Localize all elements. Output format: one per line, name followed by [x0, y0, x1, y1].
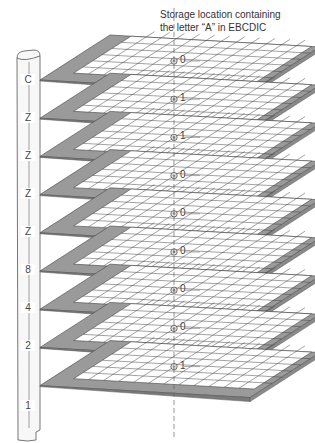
core-memory-diagram: Storage location containing the letter “… [0, 0, 315, 443]
column-label-2: 2 [21, 340, 35, 351]
column-label-8: 8 [21, 264, 35, 275]
core-planes-illustration [0, 0, 315, 443]
bit-value: 0 [180, 54, 186, 65]
column-label-zone: Z [21, 226, 35, 237]
track-column [17, 50, 40, 441]
caption: Storage location containing the letter “… [160, 8, 281, 34]
bit-value: 1 [180, 130, 186, 141]
bit-value: 0 [180, 245, 186, 256]
caption-line-2: the letter “A” in EBCDIC [160, 21, 281, 34]
column-label-zone: Z [21, 150, 35, 161]
column-label-1: 1 [21, 400, 35, 411]
bit-value: 0 [180, 207, 186, 218]
bit-value: 1 [180, 360, 186, 371]
column-label-check: C [21, 74, 35, 85]
bit-value: 1 [180, 92, 186, 103]
bit-value: 0 [180, 169, 186, 180]
bit-value: 0 [180, 321, 186, 332]
column-label-zone: Z [21, 112, 35, 123]
bit-value: 0 [180, 283, 186, 294]
column-label-4: 4 [21, 302, 35, 313]
caption-line-1: Storage location containing [160, 8, 281, 21]
column-label-zone: Z [21, 188, 35, 199]
